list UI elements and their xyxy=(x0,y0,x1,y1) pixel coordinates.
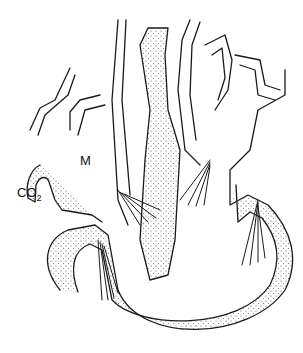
label-co2-sub: 2 xyxy=(37,193,42,203)
valve-pulmonary xyxy=(180,160,210,206)
label-co2-main: CO xyxy=(17,185,37,200)
label-co2: CO2 xyxy=(17,185,42,203)
label-m: M xyxy=(80,153,91,168)
heart-drawing xyxy=(0,0,303,353)
heart-diagram: M CO2 xyxy=(0,0,303,353)
